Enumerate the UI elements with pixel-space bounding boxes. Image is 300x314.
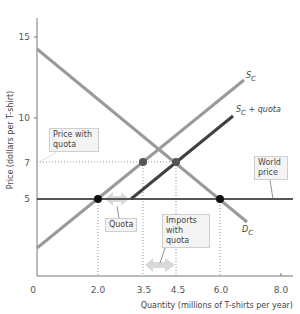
imports-with-quota-annotation: Imports with quota — [162, 214, 210, 248]
quota-annotation: Quota — [105, 218, 137, 232]
point-quota-equilibrium — [172, 158, 180, 166]
sc-quota-label: SC + quota — [236, 105, 281, 117]
x-tick-2: 2.0 — [91, 285, 106, 295]
annotation-line: Price with — [53, 130, 95, 140]
annotation-line: Imports — [166, 216, 206, 226]
dc-label: DC — [242, 225, 253, 237]
annotation-line: Quota — [109, 220, 133, 230]
y-tick-5: 5 — [24, 194, 30, 204]
annotation-line: price — [258, 168, 284, 178]
price-with-quota-annotation: Price with quota — [49, 128, 99, 152]
point-quota-supply — [139, 158, 147, 166]
imports-arrow — [145, 258, 175, 272]
sc-label: SC — [246, 71, 256, 83]
y-tick-7: 7 — [24, 158, 30, 168]
x-tick-3-5: 3.5 — [137, 285, 151, 295]
point-world-demand — [216, 195, 224, 203]
x-tick-0: 0 — [30, 285, 36, 295]
x-tick-8: 8.0 — [274, 285, 289, 295]
y-tick-10: 10 — [19, 113, 31, 123]
x-axis-label: Quantity (millions of T-shirts per year) — [141, 301, 293, 310]
annotation-line: quota — [53, 140, 95, 150]
world-price-annotation: World price — [254, 156, 288, 180]
y-tick-15: 15 — [19, 32, 30, 42]
y-axis-label: Price (dollars per T-shirt) — [6, 91, 15, 189]
annotation-line: World — [258, 158, 284, 168]
x-tick-6: 6.0 — [214, 285, 229, 295]
point-world-supply — [94, 195, 102, 203]
x-tick-4-5: 4.5 — [171, 285, 185, 295]
annotation-line: with quota — [166, 226, 206, 246]
